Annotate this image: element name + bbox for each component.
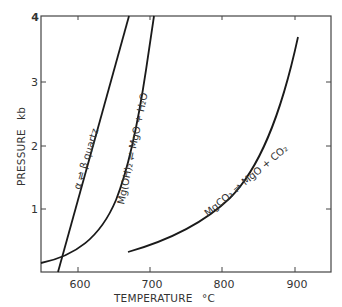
y-tick-3: 3 [31,76,38,89]
y-tick-1: 1 [31,203,38,216]
y-axis-unit: kb [15,107,27,120]
y-tick-4: 4 [31,11,39,24]
x-tick-900: 900 [287,278,308,291]
quartz-curve-label: α ⇌ β quartz [71,127,100,190]
y-axis-label: PRESSURE [15,129,27,186]
magnesite-decarbonation-curve [128,37,298,252]
x-ticks [78,16,295,272]
brucite-curve-label: Mg(OH)₂ ⇌ MgO + H₂O [115,92,149,206]
magnesite-curve-label: MgCO₃ ⇌ MgO + CO₂ [202,143,290,219]
x-tick-800: 800 [214,278,235,291]
x-axis-unit: °C [202,292,215,304]
phase-diagram: 600 700 800 900 1 2 3 4 TEMPERATURE °C P… [0,0,342,307]
x-tick-600: 600 [70,278,91,291]
x-axis-label: TEMPERATURE [113,292,193,304]
x-tick-700: 700 [142,278,163,291]
y-tick-2: 2 [31,140,38,153]
